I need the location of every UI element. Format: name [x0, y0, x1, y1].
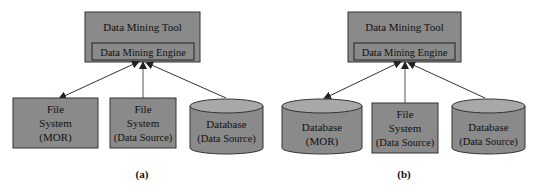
diagram-canvas: Data Mining Tool Data Mining Engine File… — [0, 0, 535, 187]
tool-title: Data Mining Tool — [365, 21, 443, 33]
svg-text:(Data Source): (Data Source) — [459, 136, 518, 148]
node-database-data-source: Database (Data Source) — [452, 99, 525, 154]
svg-text:System: System — [127, 117, 160, 129]
node-file-system-mor: File System (MOR) — [13, 98, 98, 148]
svg-text:Database: Database — [302, 121, 342, 133]
svg-text:Database: Database — [468, 121, 508, 133]
node-database-data-source: Database (Data Source) — [190, 99, 263, 154]
svg-text:System: System — [389, 122, 422, 134]
arrow-up — [147, 63, 226, 98]
svg-text:(Data Source): (Data Source) — [376, 137, 435, 149]
caption-b: (b) — [397, 168, 411, 181]
caption-a: (a) — [136, 168, 149, 181]
engine-label: Data Mining Engine — [362, 47, 448, 58]
svg-text:(MOR): (MOR) — [306, 135, 339, 148]
arrow-up — [409, 63, 485, 98]
arrow-bidirectional — [60, 62, 138, 98]
svg-text:File: File — [47, 103, 64, 115]
svg-text:(MOR): (MOR) — [39, 131, 72, 144]
arrow-bidirectional — [325, 62, 400, 98]
data-mining-tool-box: Data Mining Tool Data Mining Engine — [85, 12, 200, 62]
node-file-system-data-source: File System (Data Source) — [110, 98, 176, 148]
svg-text:(Data Source): (Data Source) — [114, 132, 173, 144]
svg-text:File: File — [134, 103, 151, 115]
svg-text:File: File — [396, 108, 413, 120]
svg-text:System: System — [39, 117, 72, 129]
node-database-mor: Database (MOR) — [282, 99, 362, 154]
svg-text:Database: Database — [206, 118, 246, 130]
svg-text:(Data Source): (Data Source) — [197, 133, 256, 145]
tool-title: Data Mining Tool — [103, 21, 181, 33]
engine-label: Data Mining Engine — [100, 47, 186, 58]
diagram-b: Data Mining Tool Data Mining Engine Data… — [282, 12, 525, 181]
node-file-system-data-source: File System (Data Source) — [372, 103, 438, 153]
diagram-a: Data Mining Tool Data Mining Engine File… — [13, 12, 263, 181]
data-mining-tool-box: Data Mining Tool Data Mining Engine — [348, 12, 461, 62]
